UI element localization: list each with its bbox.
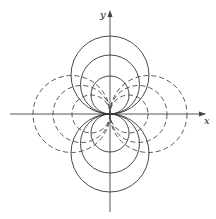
y-axis-arrow-icon [108,10,113,17]
y-axis-label: y [99,9,106,20]
x-axis-label: x [204,115,210,126]
axes [10,12,205,212]
circle-family-diagram: x y [0,0,216,219]
